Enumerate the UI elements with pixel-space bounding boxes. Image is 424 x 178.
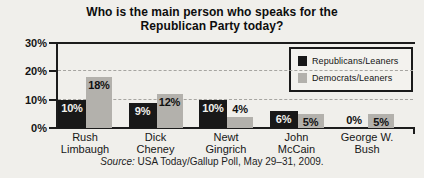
category-label: George W.Bush [325, 132, 409, 155]
chart-title: Who is the main person who speaks for th… [0, 5, 424, 33]
y-axis-tick-label: 10% [0, 94, 47, 106]
bar-value-label-democrats: 18% [80, 79, 118, 91]
bar-value-label-democrats: 5% [292, 116, 330, 128]
y-axis-tick-label: 30% [0, 37, 47, 49]
bar-value-label-democrats: 4% [221, 103, 259, 115]
bar-democrats [227, 117, 253, 128]
x-axis-end-tick [413, 127, 415, 134]
republicans-swatch-icon [298, 56, 307, 66]
plot-top-border [56, 42, 415, 44]
y-axis-tick-mark [49, 99, 56, 101]
legend-label-republicans: Republicans/Leaners [312, 56, 398, 66]
chart-root: Who is the main person who speaks for th… [0, 0, 424, 178]
democrats-swatch-icon [298, 73, 307, 83]
y-axis-tick-mark [49, 42, 56, 44]
source-prefix: Source: [100, 156, 134, 167]
category-label-line: George W. [325, 132, 409, 144]
chart-title-line2: Republican Party today? [0, 19, 424, 33]
category-label-line: Bush [325, 144, 409, 156]
gridline-20 [58, 70, 413, 71]
legend-item-democrats: Democrats/Leaners [298, 73, 411, 83]
y-axis-tick-label: 0% [0, 122, 47, 134]
source-note: Source: USA Today/Gallup Poll, May 29–31… [0, 156, 424, 167]
bar-value-label-democrats: 12% [151, 96, 189, 108]
chart-title-line1: Who is the main person who speaks for th… [0, 5, 424, 19]
y-axis-tick-mark [49, 70, 56, 72]
legend-item-republicans: Republicans/Leaners [298, 56, 411, 66]
legend-label-democrats: Democrats/Leaners [312, 73, 392, 83]
y-axis-tick-label: 20% [0, 65, 47, 77]
bar-value-label-democrats: 5% [362, 116, 400, 128]
y-axis-tick-mark [49, 127, 56, 129]
source-text: USA Today/Gallup Poll, May 29–31, 2009. [138, 156, 324, 167]
